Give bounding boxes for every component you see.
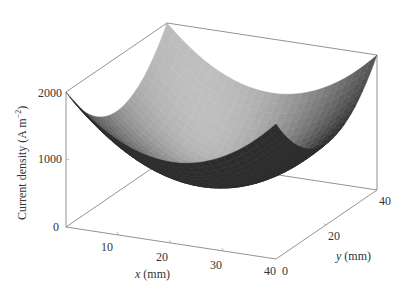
z-tick-label: 2000 [38,86,62,101]
y-tick-label: 0 [282,264,288,279]
x-axis-var: x [135,267,140,281]
y-axis-var: y [336,249,341,263]
y-axis-label: y (mm) [336,249,371,264]
x-axis-label: x (mm) [135,267,170,282]
z-axis-sup: −2 [14,110,23,119]
x-tick-label: 30 [210,258,222,273]
y-tick-label: 20 [328,229,340,244]
y-axis-unit: (mm) [344,249,371,263]
z-axis-text: Current density (A m [15,118,29,220]
z-tick-label: 0 [53,220,59,235]
z-axis-label: Current density (A m−2) [14,106,30,220]
x-tick-label: 10 [101,240,113,255]
z-axis-close: ) [15,106,29,110]
x-axis-unit: (mm) [143,267,170,281]
y-tick-label: 40 [379,194,391,209]
x-tick-label: 40 [264,264,276,279]
z-tick-label: 1000 [38,152,62,167]
x-tick-label: 20 [156,250,168,265]
